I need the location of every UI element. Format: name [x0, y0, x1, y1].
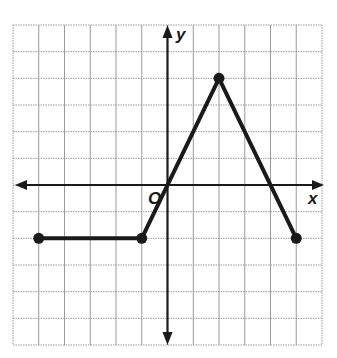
closed-point: [136, 233, 147, 244]
y-axis-label: y: [175, 25, 187, 44]
closed-point: [291, 233, 302, 244]
coordinate-graph: x y O: [0, 0, 337, 358]
x-axis-left-arrow-icon: [15, 180, 27, 190]
y-axis-up-arrow-icon: [163, 25, 173, 38]
y-axis-down-arrow-icon: [163, 332, 173, 345]
origin-label: O: [148, 189, 161, 208]
closed-point: [33, 233, 44, 244]
closed-point: [214, 73, 225, 84]
x-axis-label: x: [307, 189, 319, 208]
